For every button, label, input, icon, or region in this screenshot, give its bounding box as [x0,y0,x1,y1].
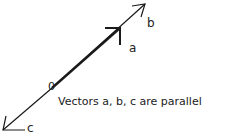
vector-diagram: b a c 0 Vectors a, b, c are parallel [0,0,234,135]
vector-lines [0,0,234,135]
label-origin: 0 [48,81,55,92]
label-b: b [147,17,155,29]
label-a: a [129,42,136,54]
caption: Vectors a, b, c are parallel [58,96,202,107]
label-c: c [27,122,34,134]
vector-a-line [52,28,120,88]
